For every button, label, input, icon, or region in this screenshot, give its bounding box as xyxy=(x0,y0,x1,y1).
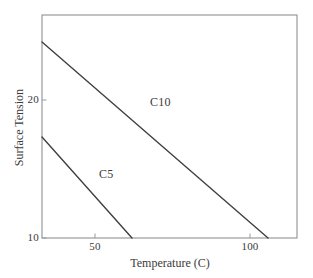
x-axis-tick-label-100: 100 xyxy=(237,240,263,252)
plot-area xyxy=(0,0,313,278)
plot-frame xyxy=(42,15,297,238)
chart-figure: 20 10 50 100 Temperature (C) Surface Ten… xyxy=(0,0,313,278)
x-axis-tick-label-50: 50 xyxy=(85,240,105,252)
y-axis-title: Surface Tension xyxy=(12,58,27,198)
series-label-c10: C10 xyxy=(150,95,171,110)
x-axis-title: Temperature (C) xyxy=(42,256,298,271)
series-label-c5: C5 xyxy=(99,167,114,182)
y-axis-tick-label-20: 20 xyxy=(25,93,39,105)
y-axis-tick-label-10: 10 xyxy=(25,231,39,243)
